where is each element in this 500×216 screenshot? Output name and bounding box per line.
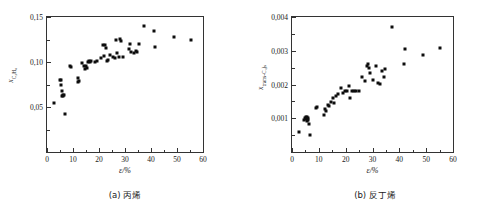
panel-a: xC₃H₆ ε/% 01020304050600,050,100,15 (a) … (0, 0, 250, 216)
data-point (337, 92, 340, 95)
data-point (363, 79, 366, 82)
data-point (63, 94, 66, 97)
x-tick-label: 50 (422, 155, 430, 164)
x-tick (319, 148, 320, 152)
data-point (104, 46, 107, 49)
data-point (367, 66, 370, 69)
data-point (307, 118, 310, 121)
x-tick (151, 148, 152, 152)
panel-a-caption: (a) 丙烯 (0, 188, 250, 200)
data-point (95, 60, 98, 63)
x-tick-label: 20 (95, 155, 103, 164)
x-tick (177, 148, 178, 152)
x-tick (453, 148, 454, 152)
data-point (60, 90, 63, 93)
data-point (107, 58, 110, 61)
x-tick-minor (164, 150, 165, 153)
x-tick-label: 40 (147, 155, 155, 164)
x-tick-minor (332, 150, 333, 153)
data-point (113, 56, 116, 59)
data-point (307, 123, 310, 126)
data-point (439, 47, 442, 50)
x-tick-label: 0 (290, 155, 294, 164)
data-point (52, 101, 55, 104)
y-tick-label: 0,15 (30, 13, 43, 22)
x-tick (47, 148, 48, 152)
data-point (382, 76, 385, 79)
data-point (59, 78, 62, 81)
data-point (189, 38, 192, 41)
x-tick-minor (60, 150, 61, 153)
data-point (154, 46, 157, 49)
y-tick-minor (47, 40, 50, 41)
x-tick-minor (305, 150, 306, 153)
panel-b-xaxis-title: ε/% (366, 166, 378, 175)
y-tick-label: 0,001 (271, 114, 288, 123)
data-point (349, 97, 352, 100)
y-tick (47, 17, 51, 18)
data-point (348, 85, 351, 88)
y-tick (47, 107, 51, 108)
x-tick (125, 148, 126, 152)
data-point (90, 59, 93, 62)
data-point (369, 71, 372, 74)
data-point (63, 112, 66, 115)
y-tick-minor (47, 130, 50, 131)
x-tick (99, 148, 100, 152)
x-tick-minor (138, 150, 139, 153)
x-tick-label: 30 (121, 155, 129, 164)
x-tick (292, 148, 293, 152)
data-point (120, 40, 123, 43)
data-point (346, 89, 349, 92)
x-tick (426, 148, 427, 152)
data-point (402, 63, 405, 66)
data-point (315, 106, 318, 109)
x-tick (399, 148, 400, 152)
figure-two-scatter-panels: xC₃H₆ ε/% 01020304050600,050,100,15 (a) … (0, 0, 500, 216)
data-point (366, 62, 369, 65)
y-tick-label: 0,10 (30, 58, 43, 67)
x-tick-label: 60 (199, 155, 207, 164)
x-tick-label: 20 (342, 155, 350, 164)
y-tick (292, 51, 296, 52)
data-point (128, 43, 131, 46)
x-tick-minor (413, 150, 414, 153)
y-tick-label: 0,002 (271, 80, 288, 89)
data-point (421, 54, 424, 57)
data-point (142, 25, 145, 28)
panel-b-yaxis-title: xtrans-C₄)ₛ (256, 65, 267, 90)
x-tick-label: 0 (45, 155, 49, 164)
data-point (371, 78, 374, 81)
panel-a-plot-area: ε/% 01020304050600,050,100,15 (46, 16, 204, 153)
x-tick-minor (190, 150, 191, 153)
data-point (117, 55, 120, 58)
x-tick-minor (440, 150, 441, 153)
x-tick-minor (112, 150, 113, 153)
data-point (360, 76, 363, 79)
data-point (333, 102, 336, 105)
data-point (70, 65, 73, 68)
data-point (339, 86, 342, 89)
data-point (384, 68, 387, 71)
data-point (403, 47, 406, 50)
data-point (102, 55, 105, 58)
x-tick-label: 60 (449, 155, 457, 164)
x-tick (73, 148, 74, 152)
x-tick-label: 30 (369, 155, 377, 164)
panel-b-caption: (b) 反丁烯 (250, 188, 500, 200)
data-point (297, 130, 300, 133)
data-point (86, 66, 89, 69)
x-tick-minor (386, 150, 387, 153)
data-point (324, 110, 327, 113)
y-tick-label: 0,05 (30, 103, 43, 112)
data-point (137, 43, 140, 46)
y-tick-minor (292, 135, 295, 136)
x-tick-label: 10 (315, 155, 323, 164)
data-point (322, 113, 325, 116)
data-point (172, 35, 175, 38)
y-tick-minor (292, 34, 295, 35)
data-point (60, 83, 63, 86)
x-tick-minor (359, 150, 360, 153)
x-tick (203, 148, 204, 152)
panel-b: xtrans-C₄)ₛ ε/% 01020304050600,0010,0020… (250, 0, 500, 216)
